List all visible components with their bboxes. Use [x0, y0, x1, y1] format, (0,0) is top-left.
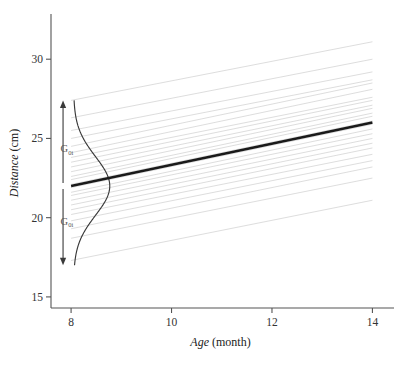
- subject-trajectory-line: [71, 178, 372, 238]
- subject-trajectory-line: [71, 42, 372, 101]
- y-axis-tick-label: 30: [32, 53, 44, 65]
- subject-trajectory-line: [71, 72, 372, 131]
- variance-arrow-up-head-icon: [60, 100, 66, 108]
- y-axis-title: Distance (cm): [7, 129, 21, 198]
- subject-trajectory-group: [71, 42, 372, 261]
- subject-trajectory-line: [71, 108, 372, 171]
- x-axis-tick-label: 10: [166, 316, 178, 328]
- upper-variance-label: G0i: [61, 143, 74, 156]
- y-axis-tick-label: 20: [32, 212, 44, 224]
- lower-variance-label: G0i: [61, 216, 74, 229]
- x-axis-tick-label: 12: [266, 316, 278, 328]
- chart-container: 152025308101214Age (month)Distance (cm)G…: [0, 0, 398, 370]
- subject-trajectory-line: [71, 154, 372, 214]
- y-axis-tick-label: 25: [32, 132, 44, 144]
- subject-trajectory-line: [71, 129, 372, 192]
- subject-trajectory-line: [71, 200, 372, 260]
- x-axis-tick-label: 14: [367, 316, 379, 328]
- subject-trajectory-line: [71, 124, 372, 187]
- subject-trajectory-line: [71, 97, 372, 157]
- subject-trajectory-line: [71, 148, 372, 210]
- y-axis-tick-label: 15: [32, 291, 44, 303]
- subject-trajectory-line: [71, 113, 372, 176]
- distance-vs-age-chart: 152025308101214Age (month)Distance (cm)G…: [0, 0, 398, 370]
- x-axis-title: Age (month): [189, 335, 250, 349]
- variance-arrow-down-head-icon: [60, 258, 66, 266]
- x-axis-tick-label: 8: [68, 316, 74, 328]
